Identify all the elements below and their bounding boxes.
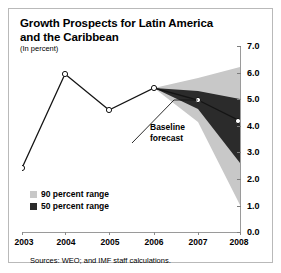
y-tick-label-5: 5.0 — [247, 95, 260, 104]
x-tick-mark — [240, 232, 241, 235]
x-tick-label-2004: 2004 — [57, 238, 76, 247]
baseline-forecast-annotation-line1: Baseline — [150, 122, 185, 132]
legend-label-50: 50 percent range — [41, 200, 109, 212]
x-tick-mark — [154, 232, 155, 235]
x-tick-mark — [65, 232, 66, 235]
baseline-forecast-annotation: Baseline forecast — [150, 122, 185, 144]
y-tick-label-2: 2.0 — [247, 175, 260, 184]
y-tick-label-0: 0.0 — [247, 228, 260, 237]
data-point-2005 — [106, 107, 111, 112]
legend-item-90-percent-range: 90 percent range — [30, 188, 109, 200]
legend-label-90: 90 percent range — [41, 188, 109, 200]
y-tick-mark — [237, 152, 241, 153]
legend-swatch-icon-90 — [30, 191, 37, 198]
y-tick-mark — [237, 206, 241, 207]
chart-title-line1: Growth Prospects for Latin America — [20, 17, 213, 29]
x-tick-label-2007: 2007 — [189, 238, 208, 247]
y-tick-mark — [237, 46, 241, 47]
chart-source-note: Sources: WEO; and IMF staff calculations… — [30, 256, 171, 265]
data-point-2003 — [22, 165, 25, 170]
legend-swatch-icon-50 — [30, 203, 37, 210]
chart-legend: 90 percent range 50 percent range — [30, 188, 109, 212]
data-point-2004 — [62, 71, 67, 76]
y-axis-line — [240, 46, 241, 233]
y-tick-label-4: 4.0 — [247, 122, 260, 131]
x-tick-label-2006: 2006 — [145, 238, 164, 247]
y-tick-mark — [237, 179, 241, 180]
x-tick-mark — [22, 232, 23, 235]
y-tick-label-1: 1.0 — [247, 202, 260, 211]
baseline-forecast-annotation-line2: forecast — [150, 133, 183, 143]
x-tick-label-2003: 2003 — [15, 238, 34, 247]
chart-figure: Growth Prospects for Latin America and t… — [0, 0, 281, 273]
x-tick-mark — [109, 232, 110, 235]
x-axis-line — [22, 232, 241, 233]
y-tick-mark — [237, 126, 241, 127]
legend-item-50-percent-range: 50 percent range — [30, 200, 109, 212]
y-tick-mark — [237, 73, 241, 74]
y-tick-label-3: 3.0 — [247, 148, 260, 157]
x-tick-label-2008: 2008 — [230, 238, 249, 247]
data-point-2006 — [151, 85, 156, 90]
x-tick-label-2005: 2005 — [101, 238, 120, 247]
chart-title: Growth Prospects for Latin America and t… — [20, 16, 235, 44]
y-tick-label-7: 7.0 — [247, 42, 260, 51]
y-tick-label-6: 6.0 — [247, 69, 260, 78]
chart-title-line2: and the Caribbean — [20, 31, 119, 43]
x-tick-mark — [198, 232, 199, 235]
y-tick-mark — [237, 99, 241, 100]
